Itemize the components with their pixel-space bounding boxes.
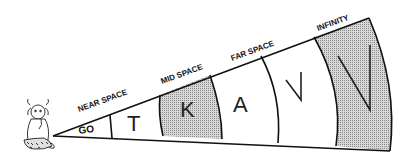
divider-1 (110, 115, 112, 138)
space-zones-diagram: NEAR SPACE MID SPACE FAR SPACE INFINITY … (0, 0, 416, 165)
divider-4 (261, 56, 279, 143)
infinity-zone (314, 18, 392, 151)
girl-figure (24, 99, 54, 149)
letter-v-small (286, 72, 301, 100)
letter-go: GO (78, 123, 95, 136)
label-far-space: FAR SPACE (230, 39, 276, 63)
letter-a: A (233, 92, 248, 117)
letter-t: T (127, 111, 140, 136)
letter-k: K (180, 97, 195, 122)
